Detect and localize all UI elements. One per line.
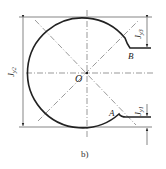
- center-point: [86, 72, 89, 75]
- label-point-a: A: [108, 108, 115, 118]
- label-jy2: Jy2: [6, 67, 17, 77]
- cam-profile-diagram: O B A Jy2 Jy3 Jy1 b): [0, 0, 166, 169]
- label-jy3: Jy3: [133, 29, 144, 39]
- figure-caption: b): [81, 149, 89, 159]
- label-center-o: O: [75, 73, 82, 84]
- label-jy1: Jy1: [133, 106, 144, 116]
- label-point-b: B: [128, 51, 134, 61]
